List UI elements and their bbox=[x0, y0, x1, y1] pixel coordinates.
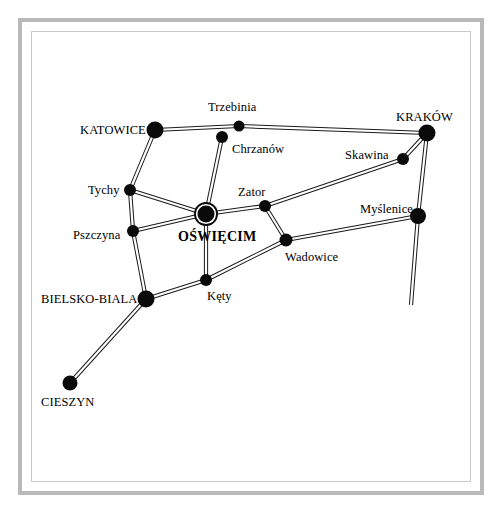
city-node-kety[interactable] bbox=[200, 274, 212, 286]
city-node-tychy[interactable] bbox=[124, 184, 136, 196]
road-core-zator-skawina-krakow bbox=[265, 133, 427, 206]
city-label-trzebinia: Trzebinia bbox=[208, 101, 256, 114]
city-label-wadowice: Wadowice bbox=[285, 251, 338, 264]
map-road-network bbox=[0, 0, 502, 513]
city-label-katowice: KATOWICE bbox=[80, 124, 146, 137]
city-label-oswiecim: OŚWIĘCIM bbox=[178, 230, 257, 244]
road-zator-skawina-krakow bbox=[265, 133, 427, 206]
city-label-zator: Zator bbox=[238, 186, 266, 199]
city-label-skawina: Skawina bbox=[345, 149, 389, 162]
city-label-bielsko: BIELSKO-BIALA bbox=[41, 293, 137, 306]
city-label-kety: Kęty bbox=[207, 290, 232, 303]
city-node-krakow[interactable] bbox=[419, 125, 436, 142]
city-node-pszczyna[interactable] bbox=[127, 225, 139, 237]
city-node-oswiecim[interactable] bbox=[198, 206, 215, 223]
city-label-chrzanow: Chrzanów bbox=[232, 143, 284, 156]
city-node-katowice[interactable] bbox=[147, 122, 164, 139]
city-node-trzebinia[interactable] bbox=[234, 121, 245, 132]
city-node-chrzanow[interactable] bbox=[216, 131, 228, 143]
road-casing-layer bbox=[70, 126, 427, 383]
city-label-myslenice: Myślenice bbox=[360, 203, 413, 216]
road-core-wadowice-myslenice bbox=[286, 216, 418, 240]
road-core-bielsko-cieszyn bbox=[70, 299, 146, 383]
road-core-katowice-tychy bbox=[130, 130, 155, 190]
city-node-skawina[interactable] bbox=[397, 153, 409, 165]
city-node-bielsko[interactable] bbox=[138, 291, 155, 308]
city-node-wadowice[interactable] bbox=[280, 234, 293, 247]
city-label-cieszyn: CIESZYN bbox=[41, 396, 94, 409]
city-label-krakow: KRAKÓW bbox=[396, 111, 453, 124]
road-core-tychy-pszczyna-bielsko bbox=[133, 231, 146, 299]
road-fill-layer bbox=[70, 126, 427, 383]
city-label-pszczyna: Pszczyna bbox=[73, 229, 120, 242]
city-node-zator[interactable] bbox=[259, 200, 271, 212]
city-node-cieszyn[interactable] bbox=[63, 376, 78, 391]
map-frame: KATOWICETrzebiniaChrzanówKRAKÓWSkawinaTy… bbox=[0, 0, 502, 513]
city-label-tychy: Tychy bbox=[88, 184, 120, 197]
